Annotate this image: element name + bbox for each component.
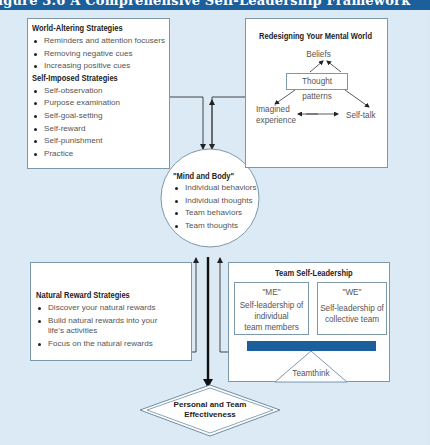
list-item: Self-observation: [32, 85, 169, 98]
personal-strategies-box: World-Altering Strategies Reminders and …: [27, 18, 170, 169]
list-item: Removing negative cues: [32, 48, 169, 61]
mental-world-arrows: [246, 19, 389, 169]
list-item: Self-goal-setting: [32, 110, 169, 123]
list-item: Team thoughts: [173, 220, 283, 233]
list-item: Discover your natural rewards: [36, 302, 191, 315]
outcome-diamond: Personal and Team Effectiveness: [160, 400, 260, 420]
natural-reward-heading: Natural Reward Strategies: [36, 291, 179, 300]
natural-reward-list: Discover your natural rewards Build natu…: [36, 302, 191, 350]
teamthink-label: Teamthink: [286, 368, 336, 379]
natural-reward-box: Natural Reward Strategies Discover your …: [30, 262, 192, 361]
mind-body-content: "Mind and Body" Individual behaviors Ind…: [173, 172, 283, 232]
list-item: Individual behaviors: [173, 182, 283, 195]
list-item: Practice: [32, 148, 169, 161]
teamthink-fulcrum: [229, 263, 391, 383]
self-imposed-list: Self-observation Purpose examination Sel…: [32, 85, 169, 161]
list-item: Build natural rewards into your life's a…: [36, 315, 191, 338]
list-item: Reminders and attention focusers: [32, 35, 169, 48]
world-altering-heading: World-Altering Strategies: [32, 24, 158, 33]
self-imposed-heading: Self-Imposed Strategies: [32, 74, 158, 83]
mind-body-heading: "Mind and Body": [173, 172, 274, 181]
list-item: Focus on the natural rewards: [36, 338, 191, 351]
list-item: Self-reward: [32, 123, 169, 136]
list-item: Increasing positive cues: [32, 60, 169, 73]
outcome-line-2: Effectiveness: [160, 410, 260, 420]
list-item: Self-punishment: [32, 135, 169, 148]
list-item: Team behaviors: [173, 207, 283, 220]
mental-world-box: Redesigning Your Mental World Beliefs Th…: [245, 18, 388, 168]
list-item: Individual thoughts: [173, 195, 283, 208]
mind-body-list: Individual behaviors Individual thoughts…: [173, 182, 283, 232]
world-altering-list: Reminders and attention focusers Removin…: [32, 35, 169, 73]
team-self-leadership-box: Team Self-Leadership "ME" Self-leadershi…: [228, 262, 390, 382]
list-item: Purpose examination: [32, 97, 169, 110]
outcome-line-1: Personal and Team: [160, 400, 260, 410]
